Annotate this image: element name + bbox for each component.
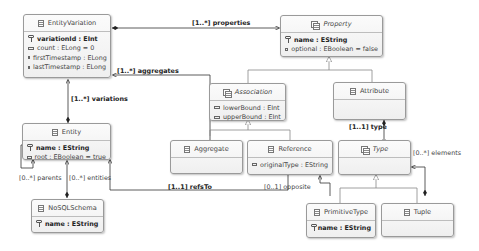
class-header: Aggregate: [171, 141, 242, 158]
class-icon: [404, 209, 410, 216]
class-header: Tuple: [382, 204, 453, 221]
class-attribute[interactable]: Attribute: [333, 82, 406, 120]
class-header: PrimitiveType: [307, 204, 375, 221]
class-icon: [314, 209, 320, 216]
class-header: Reference: [248, 141, 332, 158]
attribute-icon: [285, 48, 288, 51]
class-entity-variation[interactable]: EntityVariation variationId : EInt count…: [23, 14, 111, 78]
attribute-icon: [214, 116, 220, 119]
attribute-row[interactable]: root : EBoolean = true: [27, 153, 106, 163]
attribute-icon: [28, 56, 30, 59]
class-icon: [52, 129, 58, 136]
class-property[interactable]: Property name : EString optional : EBool…: [280, 15, 383, 57]
attribute-row[interactable]: lowerBound : EInt: [214, 103, 281, 113]
attribute-icon: [214, 106, 220, 109]
label-parents: [0..*] parents: [19, 174, 62, 182]
class-association[interactable]: Association lowerBound : EInt upperBound…: [209, 83, 286, 121]
attribute-row[interactable]: originalType : EString: [252, 160, 328, 170]
class-tuple[interactable]: Tuple: [381, 203, 454, 237]
label-properties: [1..*] properties: [192, 19, 250, 27]
class-header: Type: [339, 141, 410, 158]
label-elements: [0..*] elements: [413, 149, 461, 157]
class-aggregate[interactable]: Aggregate: [170, 140, 243, 174]
attribute-icon: [252, 163, 257, 166]
class-header: Attribute: [334, 83, 405, 100]
class-icon: [38, 20, 44, 27]
attribute-row[interactable]: upperBound : EInt: [214, 113, 281, 123]
attribute-row[interactable]: name : EString: [27, 143, 106, 153]
key-icon: [28, 35, 34, 42]
label-variations: [1..*] variations: [71, 95, 128, 103]
class-icon: [350, 88, 356, 95]
class-header: Association: [210, 84, 285, 101]
abstract-class-icon: [361, 146, 369, 153]
class-reference[interactable]: Reference originalType : EString: [247, 140, 333, 175]
class-header: NoSQLSchema: [32, 200, 103, 217]
attribute-row[interactable]: count : ELong = 0: [28, 44, 106, 54]
abstract-class-icon: [311, 21, 319, 28]
class-primitive-type[interactable]: PrimitiveType name : EString: [306, 203, 376, 238]
label-entities: [0..*] entities: [69, 174, 111, 182]
label-refs-to: [1..1] refsTo: [168, 183, 212, 191]
attribute-row[interactable]: name : EString: [311, 223, 371, 233]
attribute-row[interactable]: name : EString: [285, 35, 378, 45]
attribute-row[interactable]: name : EString: [36, 219, 99, 229]
class-header: EntityVariation: [24, 15, 110, 32]
key-icon: [36, 220, 42, 227]
abstract-class-icon: [223, 89, 231, 96]
attribute-icon: [28, 66, 30, 69]
key-icon: [311, 224, 315, 231]
label-opposite: [0..1] opposite: [264, 183, 311, 191]
key-icon: [27, 144, 33, 151]
attribute-icon: [28, 47, 34, 50]
class-icon: [268, 146, 274, 153]
attribute-row[interactable]: firstTimestamp : ELong: [28, 53, 106, 63]
attribute-row[interactable]: optional : EBoolean = false: [285, 45, 378, 55]
label-type: [1..1] type: [349, 123, 387, 131]
class-type[interactable]: Type: [338, 140, 411, 175]
class-entity[interactable]: Entity name : EString root : EBoolean = …: [22, 123, 111, 160]
class-icon: [184, 146, 190, 153]
attribute-icon: [27, 156, 32, 159]
class-header: Entity: [23, 124, 110, 141]
label-aggregates: [1..*] aggregates: [117, 67, 179, 75]
attribute-row[interactable]: lastTimestamp : ELong: [28, 63, 106, 73]
class-header: Property: [281, 16, 382, 33]
class-nosql-schema[interactable]: NoSQLSchema name : EString: [31, 199, 104, 233]
attribute-row[interactable]: variationId : EInt: [28, 34, 106, 44]
key-icon: [285, 36, 291, 43]
class-icon: [38, 205, 44, 212]
